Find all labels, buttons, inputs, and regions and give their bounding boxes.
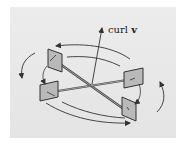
paddle-right (124, 68, 143, 88)
paddle-bottom-right (122, 97, 136, 121)
right-rotation-arrow (157, 82, 164, 112)
paddle-left (40, 81, 58, 101)
paddle-wheel-diagram (0, 0, 185, 145)
curl-v-label: curl v (108, 24, 137, 35)
left-rotation-arrow (22, 53, 35, 78)
curl-vector-arrow (92, 28, 102, 84)
